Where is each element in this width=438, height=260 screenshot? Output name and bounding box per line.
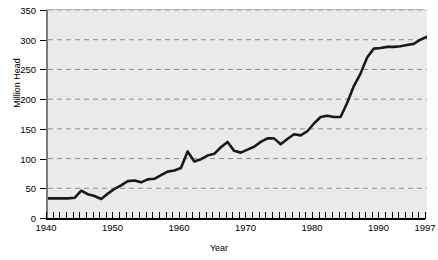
x-tick-mark-1994 [405,212,406,219]
x-tick-mark-1987 [359,212,360,219]
x-tick-mark-1949 [106,212,107,219]
x-tick-mark-1978 [299,212,300,219]
x-tick-mark-1959 [172,212,173,219]
x-tick-mark-1953 [132,212,133,219]
y-tick-label-50: 50 [0,184,36,193]
x-tick-mark-1981 [319,212,320,219]
x-tick-mark-1955 [146,212,147,219]
x-tick-mark-1970 [245,212,246,219]
x-tick-mark-1945 [79,212,80,219]
x-tick-mark-1973 [265,212,266,219]
plot-area [46,10,427,218]
x-tick-mark-1995 [412,212,413,219]
x-tick-mark-1960 [179,212,180,219]
x-axis-line [46,218,425,220]
x-tick-mark-1962 [192,212,193,219]
x-tick-mark-1957 [159,212,160,219]
data-line-million-head [48,37,427,199]
x-tick-mark-1977 [292,212,293,219]
x-tick-mark-1967 [226,212,227,219]
x-tick-mark-1988 [365,212,366,219]
y-tick-label-250: 250 [0,65,36,74]
x-tick-label-1980: 1980 [292,222,332,233]
x-tick-mark-1958 [166,212,167,219]
y-tick-label-350: 350 [0,6,36,15]
x-tick-label-1950: 1950 [92,222,132,233]
x-tick-mark-1996 [418,212,419,219]
x-tick-mark-1965 [212,212,213,219]
x-tick-mark-1974 [272,212,273,219]
x-tick-mark-1985 [345,212,346,219]
x-tick-label-1997: 1997 [405,222,438,233]
x-tick-label-1940: 1940 [26,222,66,233]
series-svg [48,10,427,218]
y-axis-label: Million Head [12,38,22,128]
x-tick-mark-1975 [279,212,280,219]
x-tick-mark-1954 [139,212,140,219]
x-tick-mark-1991 [385,212,386,219]
y-tick-label-100: 100 [0,155,36,164]
x-tick-mark-1940 [46,212,47,219]
x-tick-mark-1979 [305,212,306,219]
x-tick-mark-1963 [199,212,200,219]
x-tick-mark-1980 [312,212,313,219]
y-tick-label-200: 200 [0,95,36,104]
chart-title: 1940-1997 [0,0,438,1]
x-tick-mark-1992 [392,212,393,219]
x-tick-mark-1982 [325,212,326,219]
x-tick-mark-1946 [86,212,87,219]
x-tick-mark-1971 [252,212,253,219]
x-tick-mark-1964 [206,212,207,219]
x-tick-mark-1968 [232,212,233,219]
x-tick-mark-1961 [186,212,187,219]
x-tick-mark-1948 [99,212,100,219]
x-tick-label-1970: 1970 [225,222,265,233]
x-tick-mark-1944 [73,212,74,219]
x-tick-mark-1972 [259,212,260,219]
x-tick-mark-1969 [239,212,240,219]
x-tick-mark-1942 [59,212,60,219]
x-tick-mark-1943 [66,212,67,219]
chart-figure: 1940-1997 Million Head Year 350 300 250 … [0,0,438,260]
x-tick-label-1960: 1960 [159,222,199,233]
x-tick-label-1990: 1990 [358,222,398,233]
gridlines [48,10,427,188]
x-tick-mark-1951 [119,212,120,219]
x-axis-label: Year [0,243,438,253]
x-tick-mark-1993 [398,212,399,219]
x-tick-mark-1989 [372,212,373,219]
x-tick-mark-1947 [93,212,94,219]
x-tick-mark-1966 [219,212,220,219]
x-tick-mark-1976 [285,212,286,219]
x-tick-mark-1997 [425,212,426,219]
y-tick-label-300: 300 [0,36,36,45]
x-tick-mark-1990 [378,212,379,219]
x-tick-mark-1986 [352,212,353,219]
x-tick-mark-1983 [332,212,333,219]
x-tick-mark-1950 [112,212,113,219]
y-tick-label-150: 150 [0,125,36,134]
x-tick-mark-1941 [53,212,54,219]
x-tick-mark-1984 [339,212,340,219]
x-tick-mark-1952 [126,212,127,219]
x-tick-mark-1956 [152,212,153,219]
